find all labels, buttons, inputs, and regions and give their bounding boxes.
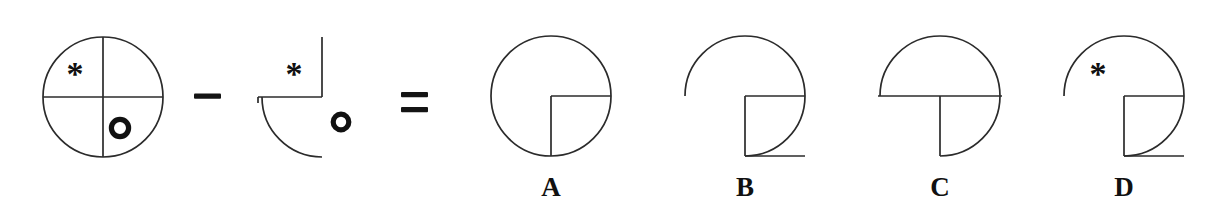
option-b[interactable]: B	[685, 36, 805, 202]
option-d[interactable]: * D	[1064, 36, 1184, 202]
minus-bar	[194, 94, 221, 99]
subtrahend-asterisk-icon: *	[286, 55, 303, 92]
minuend-asterisk-icon: *	[67, 55, 84, 92]
operand-minuend: *	[43, 37, 163, 157]
option-c[interactable]: C	[878, 36, 1002, 202]
option-c-upper-half-arc	[880, 36, 1000, 96]
operand-subtrahend: *	[258, 37, 349, 157]
equals-bar-bottom	[401, 107, 428, 112]
option-c-label: C	[930, 172, 950, 202]
option-d-label: D	[1114, 172, 1134, 202]
option-b-label: B	[736, 172, 754, 202]
option-a-label: A	[541, 172, 561, 202]
puzzle-figure-row: * * A B	[0, 0, 1205, 211]
option-d-asterisk-icon: *	[1090, 55, 1107, 92]
option-c-lower-right-arc	[940, 96, 1000, 156]
operator-equals	[401, 92, 428, 112]
equals-bar-top	[401, 92, 428, 97]
minuend-ring-icon	[111, 119, 128, 136]
option-a[interactable]: A	[491, 36, 611, 202]
subtrahend-lower-left-arc	[262, 97, 322, 157]
subtrahend-ring-icon	[333, 114, 349, 130]
operator-minus	[194, 94, 221, 99]
